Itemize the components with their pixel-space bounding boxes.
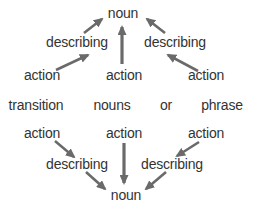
arrow-top-right-describing-to-noun-icon [147,19,165,33]
top-right-describing-label: describing [144,34,206,50]
top-right-action-label: action [188,67,224,83]
middle-transition-label: transition [9,97,64,113]
top-center-action-label: action [106,67,142,83]
top-left-describing-label: describing [46,34,108,50]
bottom-left-action-label: action [24,125,60,141]
bottom-left-describing-label: describing [46,156,108,172]
arrow-top-left-describing-to-noun-icon [84,19,102,33]
middle-or-label: or [160,97,172,113]
bottom-center-action-label: action [106,125,142,141]
arrow-bottom-right-describing-to-noun-icon [146,172,166,189]
arrow-bottom-right-action-to-describing-icon [177,142,199,156]
top-left-action-label: action [24,67,60,83]
middle-phrase-label: phrase [201,97,243,113]
bottom-noun-label: noun [111,187,141,203]
grammar-flow-diagram: noun describing describing action action… [0,0,254,210]
top-noun-label: noun [108,5,138,21]
bottom-right-action-label: action [188,125,224,141]
arrow-bottom-left-describing-to-noun-icon [86,172,105,189]
arrow-bottom-left-action-to-describing-icon [55,141,74,157]
arrow-top-left-action-to-describing-icon [56,55,88,70]
bottom-right-describing-label: describing [141,156,203,172]
middle-nouns-label: nouns [93,97,130,113]
